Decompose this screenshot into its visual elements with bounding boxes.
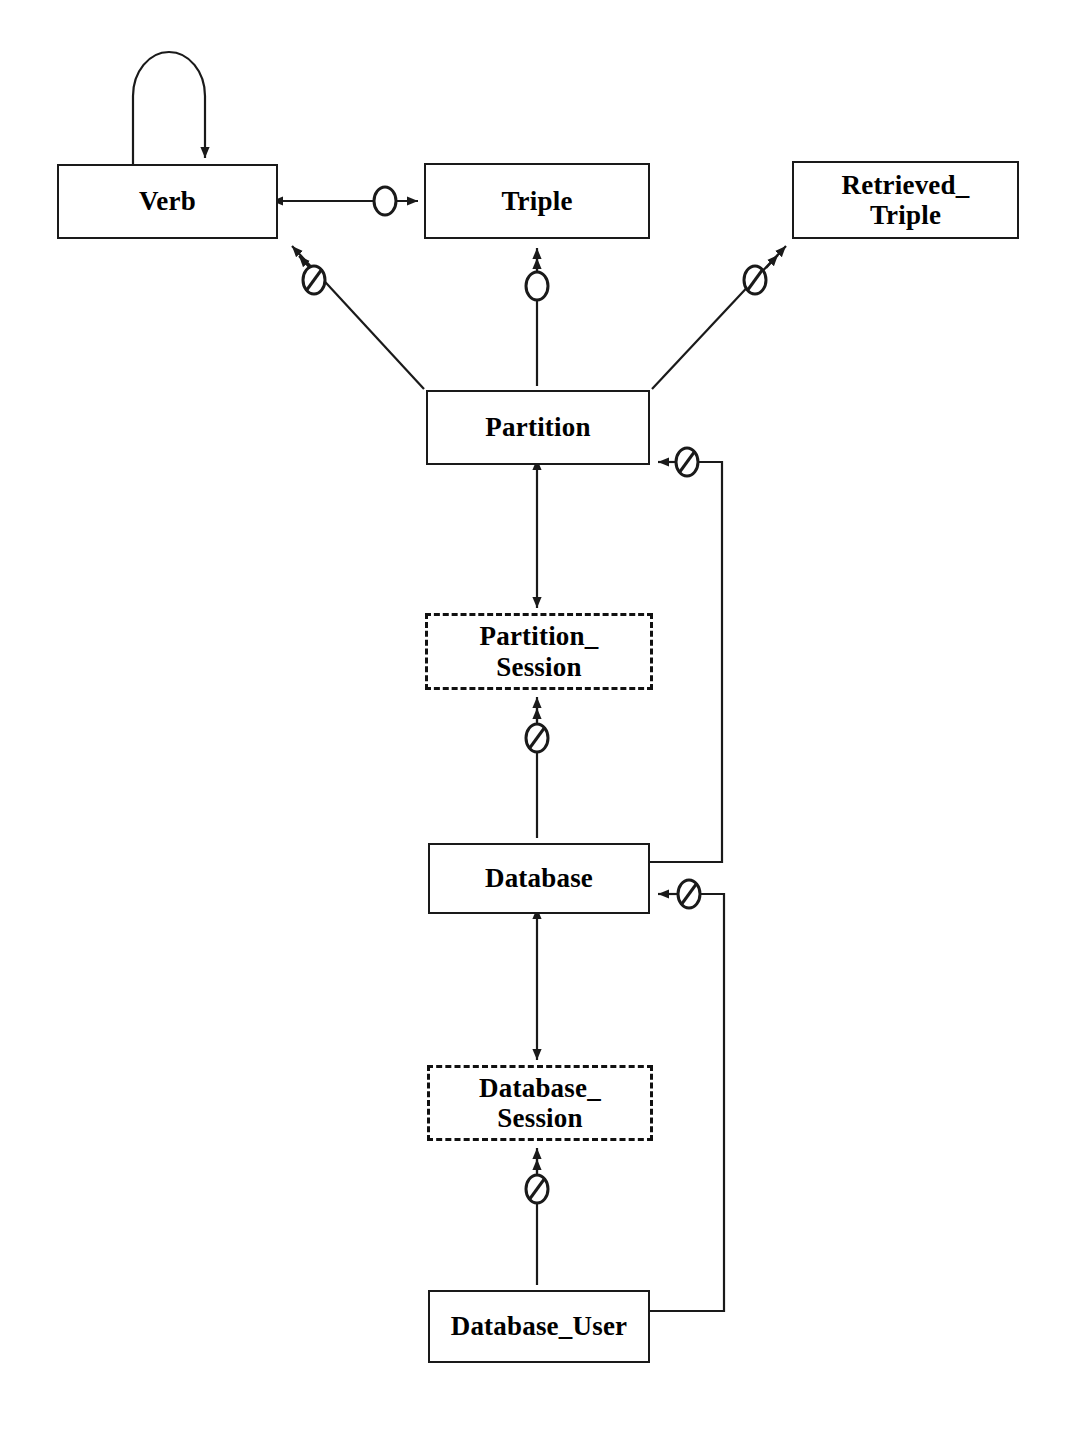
entity-label-database: Database: [481, 863, 597, 893]
entity-label-database-user: Database_User: [447, 1311, 632, 1341]
entity-label-triple: Triple: [497, 186, 576, 216]
relationship-marker-circle-slashed: [744, 266, 766, 294]
entity-box-verb[interactable]: Verb: [57, 164, 278, 239]
entity-box-database-user[interactable]: Database_User: [428, 1290, 650, 1363]
relationship-marker-circle-slashed: [526, 1175, 548, 1203]
connector-verb-self: [133, 52, 205, 164]
entity-relationship-diagram: Verb Triple Retrieved_ Triple Partition …: [0, 0, 1073, 1429]
entity-box-triple[interactable]: Triple: [424, 163, 650, 239]
entity-label-partition-session: Partition_ Session: [476, 621, 603, 681]
connector-database-partition: [650, 462, 722, 862]
entity-label-retrieved-triple: Retrieved_ Triple: [838, 170, 974, 230]
entity-box-database-session[interactable]: Database_ Session: [427, 1065, 653, 1141]
relationship-marker-circle-slashed: [526, 724, 548, 752]
entity-box-partition-session[interactable]: Partition_ Session: [425, 613, 653, 690]
relationship-marker-circle-slashed: [303, 266, 325, 294]
relationship-marker-circle-slashed: [676, 448, 698, 476]
relationship-marker-circle: [526, 272, 548, 300]
connector-partition-retrieved-triple: [652, 246, 786, 389]
entity-box-partition[interactable]: Partition: [426, 390, 650, 465]
entity-label-database-session: Database_ Session: [475, 1073, 605, 1133]
relationship-marker-circle: [374, 187, 396, 215]
relationship-marker-circle-slashed: [678, 880, 700, 908]
entity-box-retrieved-triple[interactable]: Retrieved_ Triple: [792, 161, 1019, 239]
entity-label-partition: Partition: [481, 412, 594, 442]
connector-database-user-database: [650, 894, 724, 1311]
entity-label-verb: Verb: [135, 186, 200, 216]
entity-box-database[interactable]: Database: [428, 843, 650, 914]
